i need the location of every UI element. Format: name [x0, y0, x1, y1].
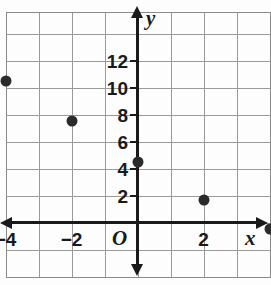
grid-border-vertical: [270, 12, 271, 277]
y-tick-label: 12: [107, 51, 128, 70]
y-tick-label: 2: [117, 186, 128, 205]
y-tick-label: 10: [107, 78, 128, 97]
data-point: [264, 224, 271, 235]
y-tick-label: 6: [117, 132, 128, 151]
data-point: [132, 156, 143, 167]
data-point: [0, 75, 11, 86]
y-axis-line: [136, 16, 139, 266]
x-tick-label: −2: [61, 230, 83, 249]
y-axis-label: y: [146, 8, 155, 29]
data-point: [66, 116, 77, 127]
x-axis-label: x: [245, 228, 256, 249]
gridline-vertical: [105, 12, 106, 277]
gridline-vertical: [171, 12, 172, 277]
gridline-vertical: [237, 12, 238, 277]
y-axis-tick-mark: [130, 114, 136, 116]
y-axis-arrow-up-icon: [131, 6, 143, 18]
data-point: [198, 194, 209, 205]
grid-border-horizontal: [6, 277, 271, 278]
origin-label: O: [112, 228, 127, 249]
gridline-vertical: [39, 12, 40, 277]
y-tick-label: 4: [117, 159, 128, 178]
x-axis-arrow-left-icon: [0, 217, 12, 229]
x-tick-label: 2: [198, 230, 209, 249]
y-axis-tick-mark: [130, 168, 136, 170]
y-axis-tick-mark: [130, 195, 136, 197]
x-tick-label: −4: [0, 230, 16, 249]
y-axis-tick-mark: [130, 141, 136, 143]
coordinate-plane-figure: 12108642 −4−22 y x O: [0, 0, 271, 285]
x-axis-line: [8, 221, 258, 224]
y-axis-tick-mark: [130, 60, 136, 62]
y-axis-arrow-down-icon: [131, 264, 143, 276]
y-axis-tick-mark: [130, 87, 136, 89]
y-tick-label: 8: [117, 105, 128, 124]
